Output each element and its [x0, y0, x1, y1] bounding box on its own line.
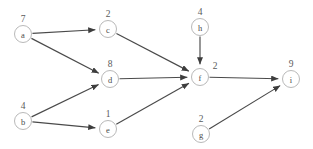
node-weight-i: 9: [289, 59, 294, 69]
node-f[interactable]: f2: [192, 61, 218, 86]
edge-a-to-c: [32, 30, 95, 34]
node-label-c: c: [106, 25, 110, 35]
node-d[interactable]: d8: [102, 59, 119, 88]
edge-b-to-e: [32, 122, 95, 128]
node-a[interactable]: a7: [15, 14, 32, 43]
edge-b-to-d: [32, 85, 99, 117]
node-label-f: f: [199, 73, 202, 83]
node-i[interactable]: i9: [283, 59, 300, 88]
edge-g-to-i: [209, 86, 280, 129]
node-b[interactable]: b4: [15, 101, 32, 130]
node-label-a: a: [21, 30, 25, 40]
graph-svg: a7b4c2d8e1f2g2h4i9: [0, 0, 313, 149]
nodes-layer: a7b4c2d8e1f2g2h4i9: [15, 7, 300, 143]
node-weight-d: 8: [108, 59, 113, 69]
edges-layer: [31, 30, 280, 129]
edge-d-to-f: [119, 77, 187, 79]
edge-e-to-f: [116, 83, 189, 124]
node-h[interactable]: h4: [192, 7, 209, 36]
node-weight-h: 4: [198, 7, 203, 17]
node-weight-f: 2: [213, 61, 218, 71]
edge-a-to-d: [31, 38, 98, 73]
node-e[interactable]: e1: [100, 109, 117, 138]
node-label-b: b: [21, 117, 25, 127]
node-c[interactable]: c2: [100, 9, 117, 38]
node-label-e: e: [106, 125, 110, 135]
edge-c-to-f: [116, 33, 188, 71]
node-weight-e: 1: [106, 109, 111, 119]
node-weight-c: 2: [106, 9, 111, 19]
node-weight-b: 4: [21, 101, 26, 111]
node-g[interactable]: g2: [193, 114, 210, 143]
node-weight-a: 7: [21, 14, 26, 24]
edge-f-to-i: [209, 77, 278, 79]
node-weight-g: 2: [199, 114, 204, 124]
diagram-canvas: a7b4c2d8e1f2g2h4i9: [0, 0, 313, 149]
